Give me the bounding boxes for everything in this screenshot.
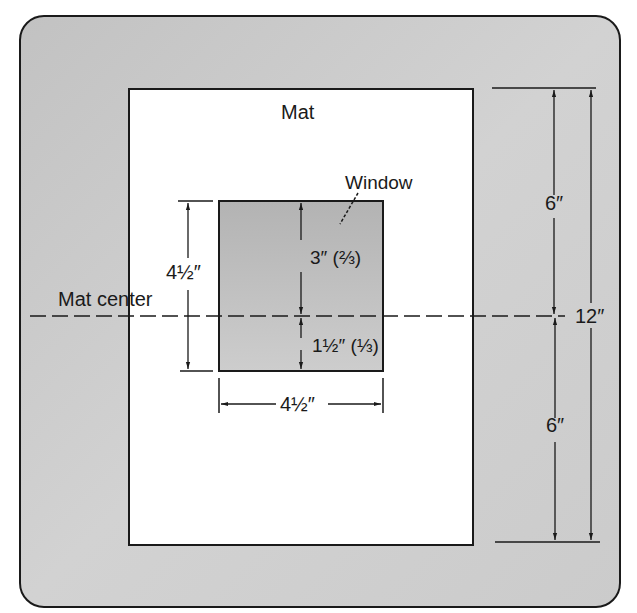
window-label: Window (345, 172, 413, 193)
mat-center-label: Mat center (58, 288, 153, 310)
upper-half-label: 6″ (545, 192, 563, 214)
mat-diagram: Mat Window Mat center 4½″ 3″ (⅔) 1½″ (⅓)… (0, 0, 637, 613)
lower-half-label: 6″ (546, 414, 564, 436)
window-height-label: 4½″ (166, 261, 201, 283)
total-height-label: 12″ (575, 305, 604, 327)
lower-part-label: 1½″ (⅓) (312, 335, 379, 356)
mat-label: Mat (281, 101, 315, 123)
upper-part-label: 3″ (⅔) (310, 247, 361, 268)
window-width-label: 4½″ (280, 393, 315, 415)
